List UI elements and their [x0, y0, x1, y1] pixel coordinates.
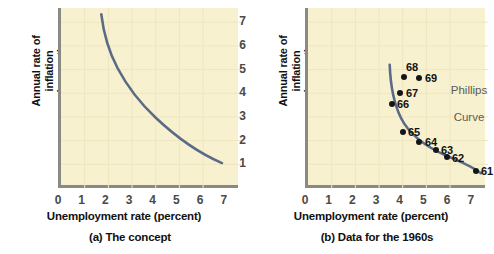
- data-point-63[interactable]: [433, 147, 439, 153]
- panel-b-xtick-2: 2: [342, 194, 362, 206]
- panel-b-x-axis-title: Unemployment rate (percent): [265, 210, 477, 222]
- data-point-62[interactable]: [444, 154, 450, 160]
- panel-b-caption: (b) Data for the 1960s: [277, 231, 477, 243]
- panel-b-xtick-1: 1: [319, 194, 339, 206]
- panel-a-curve-svg: [61, 8, 241, 188]
- data-point-label-61: 61: [481, 166, 493, 177]
- panel-b-data-1960s: Annual rate of inflation (percent) 7 6 5…: [247, 0, 494, 254]
- phillips-curve-figure: Annual rate of inflation (percent) 7 6 5…: [0, 0, 494, 254]
- panel-b-ytick-6: 6: [226, 39, 246, 51]
- panel-b-ytick-4: 4: [226, 86, 246, 98]
- panel-a-xtick-5: 5: [166, 194, 186, 206]
- panel-a-caption: (a) The concept: [30, 231, 230, 243]
- panel-a-xtick-0: 0: [48, 194, 68, 206]
- data-point-label-68: 68: [406, 62, 418, 73]
- panel-b-ytick-5: 5: [226, 63, 246, 75]
- phillips-curve-annotation: Phillips Curve: [441, 71, 494, 124]
- panel-a-the-concept: Annual rate of inflation (percent) 7 6 5…: [0, 0, 247, 254]
- panel-b-xtick-5: 5: [413, 194, 433, 206]
- panel-b-ytick-1: 1: [226, 157, 246, 169]
- panel-a-xtick-4: 4: [143, 194, 163, 206]
- data-point-61[interactable]: [473, 168, 479, 174]
- phillips-curve-annotation-line2: Curve: [454, 111, 485, 123]
- panel-b-ytick-2: 2: [226, 134, 246, 146]
- panel-b-xtick-7: 7: [461, 194, 481, 206]
- panel-b-xtick-4: 4: [390, 194, 410, 206]
- panel-b-xtick-3: 3: [366, 194, 386, 206]
- panel-b-y-axis-title-line1: Annual rate of inflation: [277, 35, 302, 106]
- data-point-label-62: 62: [452, 153, 464, 164]
- data-point-65[interactable]: [400, 129, 406, 135]
- data-point-66[interactable]: [389, 101, 395, 107]
- panel-a-xtick-7: 7: [214, 194, 234, 206]
- data-point-label-66: 66: [397, 99, 409, 110]
- panel-a-xtick-2: 2: [95, 194, 115, 206]
- phillips-curve-annotation-line1: Phillips: [451, 84, 487, 96]
- data-point-68[interactable]: [401, 74, 407, 80]
- panel-a-faint-gridlines: [61, 8, 241, 188]
- data-point-label-65: 65: [408, 127, 420, 138]
- panel-a-x-axis-title: Unemployment rate (percent): [18, 210, 230, 222]
- panel-a-xtick-3: 3: [119, 194, 139, 206]
- panel-a-plot-area: [58, 8, 238, 188]
- panel-b-xtick-6: 6: [437, 194, 457, 206]
- panel-b-ytick-3: 3: [226, 110, 246, 122]
- panel-b-ytick-7: 7: [226, 15, 246, 27]
- panel-b-plot-area: 68 69 67 66 65 64 63 62 61 Phillips Curv…: [305, 8, 485, 188]
- panel-a-xtick-6: 6: [190, 194, 210, 206]
- panel-a-xtick-1: 1: [72, 194, 92, 206]
- data-point-label-69: 69: [425, 73, 437, 84]
- panel-b-xtick-0: 0: [295, 194, 315, 206]
- panel-a-y-axis-title-line1: Annual rate of inflation: [30, 35, 55, 106]
